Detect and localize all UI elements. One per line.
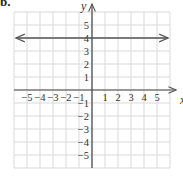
x-tick-label: 4: [141, 92, 147, 103]
x-tick-label: −4: [34, 92, 46, 103]
coordinate-plane: xy −5−4−3−2−11234554321−1−2−3−4−5: [0, 0, 183, 176]
y-tick-label: 3: [84, 46, 89, 57]
x-tick-label: −2: [60, 92, 71, 103]
x-tick-label: −5: [21, 92, 32, 103]
y-tick-label: −4: [78, 137, 90, 148]
y-tick-label: 1: [84, 72, 89, 83]
y-axis-label: y: [80, 0, 87, 13]
x-axis-label: x: [179, 93, 183, 107]
x-tick-label: 1: [102, 92, 107, 103]
y-tick-label: −2: [78, 111, 89, 122]
x-tick-label: −3: [47, 92, 58, 103]
y-tick-label: −3: [78, 124, 89, 135]
y-tick-label: −5: [78, 150, 89, 161]
y-tick-label: 2: [84, 59, 89, 70]
x-tick-label: 3: [128, 92, 133, 103]
y-tick-label: −1: [78, 98, 89, 109]
x-tick-label: 5: [154, 92, 159, 103]
y-tick-label: 5: [84, 20, 89, 31]
x-tick-label: 2: [115, 92, 120, 103]
